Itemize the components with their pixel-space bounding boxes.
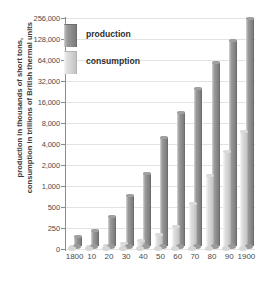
chart-legend: production consumption bbox=[64, 24, 184, 72]
x-tick-label: 70 bbox=[190, 252, 199, 261]
bar-consumption bbox=[223, 151, 231, 249]
x-tick-label: 10 bbox=[87, 252, 96, 261]
bar-production bbox=[126, 195, 134, 246]
bar-base bbox=[136, 246, 144, 251]
bar-base bbox=[102, 246, 110, 251]
bar-production bbox=[108, 216, 116, 246]
x-tick-label: 90 bbox=[225, 252, 234, 261]
x-axis-tick-labels: 18001020304050607080901900 bbox=[66, 252, 255, 266]
bar-consumption bbox=[206, 175, 214, 249]
x-tick-label: 1800 bbox=[66, 252, 84, 261]
bar-consumption bbox=[189, 203, 197, 249]
y-tick-label: 0 bbox=[2, 245, 60, 254]
bar-base bbox=[85, 246, 93, 251]
y-axis-title: production in thousands of short tons, c… bbox=[14, 40, 36, 240]
gridline bbox=[66, 81, 255, 82]
bar-base bbox=[188, 246, 196, 251]
bar-base bbox=[171, 246, 179, 251]
legend-label-consumption: consumption bbox=[86, 56, 140, 66]
bar-base bbox=[154, 246, 162, 251]
bar-production bbox=[143, 173, 151, 246]
x-tick-label: 50 bbox=[156, 252, 165, 261]
bar-base bbox=[205, 246, 213, 251]
x-tick-label: 40 bbox=[139, 252, 148, 261]
y-axis-title-line2: consumption in trillions of British ther… bbox=[25, 22, 34, 193]
bar-base bbox=[222, 246, 230, 251]
bar-consumption bbox=[240, 131, 248, 249]
production-swatch-icon bbox=[64, 24, 77, 47]
coal-production-consumption-chart: 256,000 128,000 64,000 32,000 16,000 8,0… bbox=[0, 0, 261, 289]
x-tick-label: 80 bbox=[208, 252, 217, 261]
x-tick-label: 60 bbox=[173, 252, 182, 261]
gridline bbox=[66, 123, 255, 124]
bar-base bbox=[119, 246, 127, 251]
bar-base bbox=[239, 246, 247, 251]
legend-label-production: production bbox=[86, 29, 131, 39]
x-tick-label: 30 bbox=[122, 252, 131, 261]
gridline bbox=[66, 102, 255, 103]
x-tick-label: 20 bbox=[105, 252, 114, 261]
consumption-swatch-icon bbox=[64, 51, 77, 74]
y-axis-title-line1: production in thousands of short tons, bbox=[15, 38, 24, 178]
gridline bbox=[66, 18, 255, 19]
bar-production bbox=[160, 137, 168, 246]
x-tick-label: 1900 bbox=[238, 252, 256, 261]
bar-base bbox=[68, 246, 76, 251]
